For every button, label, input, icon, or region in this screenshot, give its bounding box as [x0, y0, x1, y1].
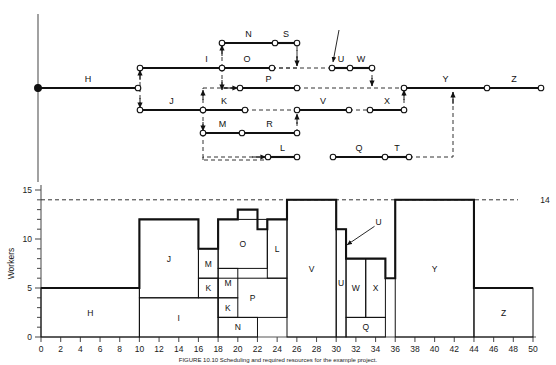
network-event-node-2 [137, 65, 143, 71]
dependency-link-16 [409, 92, 453, 157]
network-event-node-18 [239, 130, 245, 136]
figure-canvas: HIJNSOPKMRVXUWLQTYZ 05101502468101214161… [0, 0, 556, 365]
x-tick-label-32: 32 [351, 344, 361, 354]
network-event-node-26 [382, 154, 388, 160]
activity-label-i-1: I [205, 54, 208, 64]
network-event-node-22 [369, 65, 375, 71]
activity-label-y-17: Y [442, 74, 448, 84]
network-event-node-4 [200, 107, 206, 113]
activity-label-o-5: O [243, 54, 250, 64]
x-tick-label-6: 6 [98, 344, 103, 354]
network-event-node-15 [346, 107, 352, 113]
activity-label-j-2: J [169, 96, 174, 106]
resource-block-label-y-16: Y [432, 264, 438, 274]
network-event-node-25 [330, 154, 336, 160]
dependency-link-3 [222, 68, 238, 88]
network-event-node-10 [269, 65, 275, 71]
x-tick-label-12: 12 [154, 344, 164, 354]
activity-label-k-7: K [221, 96, 227, 106]
x-tick-label-14: 14 [174, 344, 184, 354]
threshold-label: 14 [540, 195, 550, 205]
network-event-node-11 [237, 85, 243, 91]
network-event-node-9 [219, 65, 225, 71]
x-tick-label-18: 18 [213, 344, 223, 354]
x-tick-label-22: 22 [253, 344, 263, 354]
x-tick-label-28: 28 [312, 344, 322, 354]
network-event-node-17 [401, 107, 407, 113]
figure-caption: FIGURE 10.10 Scheduling and required res… [179, 357, 378, 363]
resource-block-label-l-10: L [275, 244, 280, 254]
activity-label-t-16: T [394, 143, 400, 153]
network-event-node-28 [401, 85, 407, 91]
network-event-node-29 [484, 85, 490, 91]
dependency-link-9 [203, 133, 266, 160]
network-event-node-8 [294, 40, 300, 46]
x-tick-label-38: 38 [410, 344, 420, 354]
activity-label-r-9: R [266, 119, 273, 129]
activity-label-q-15: Q [355, 143, 362, 153]
network-diagram: HIJNSOPKMRVXUWLQTYZ [35, 14, 544, 182]
network-event-node-20 [347, 65, 353, 71]
resource-block-label-m-7: M [224, 278, 231, 288]
activity-label-h-0: H [85, 74, 92, 84]
x-tick-label-46: 46 [489, 344, 499, 354]
y-tick-label-5: 5 [27, 283, 32, 293]
network-event-node-12 [294, 85, 300, 91]
activity-label-u-12: U [338, 54, 345, 64]
activity-label-v-10: V [320, 96, 326, 106]
network-event-node-24 [294, 154, 300, 160]
network-event-node-14 [294, 107, 300, 113]
activity-label-n-3: N [245, 29, 252, 39]
y-tick-label-0: 0 [27, 332, 32, 342]
network-event-node-7 [272, 40, 278, 46]
annotation-label-u-0: U [375, 217, 381, 227]
activity-label-w-13: W [357, 54, 366, 64]
resource-block-label-n-5: N [235, 322, 241, 332]
resource-block-label-u-12: U [338, 278, 344, 288]
activity-label-x-11: X [384, 96, 390, 106]
x-tick-label-34: 34 [371, 344, 381, 354]
x-tick-label-16: 16 [194, 344, 204, 354]
resource-block-label-k-3: K [205, 283, 211, 293]
x-tick-label-26: 26 [292, 344, 302, 354]
network-event-node-16 [367, 107, 373, 113]
resource-block-label-h-0: H [87, 308, 93, 318]
y-tick-label-15: 15 [23, 185, 33, 195]
network-event-node-19 [294, 130, 300, 136]
network-event-node-27 [406, 154, 412, 160]
resource-block-label-x-15: X [373, 283, 379, 293]
resource-block-label-i-1: I [178, 313, 180, 323]
resource-block-label-k-6: K [225, 303, 231, 313]
resource-block-label-j-2: J [167, 254, 171, 264]
resource-block-label-o-9: O [239, 239, 246, 249]
network-event-node-1 [135, 85, 141, 91]
x-tick-label-44: 44 [469, 344, 479, 354]
resource-block-label-m-4: M [205, 259, 212, 269]
activity-label-s-4: S [283, 29, 289, 39]
resource-block-label-q-13: Q [362, 322, 369, 332]
y-axis-title: Workers [6, 248, 16, 280]
network-start-node [35, 85, 42, 92]
x-tick-label-42: 42 [450, 344, 460, 354]
x-tick-label-36: 36 [391, 344, 401, 354]
x-tick-label-48: 48 [509, 344, 519, 354]
resource-block-label-v-11: V [309, 264, 315, 274]
x-tick-label-30: 30 [331, 344, 341, 354]
resource-block-label-z-17: Z [501, 308, 506, 318]
network-event-node-23 [265, 154, 271, 160]
annotation-leader-u-0 [347, 226, 374, 245]
activity-label-p-6: P [265, 74, 271, 84]
x-tick-label-24: 24 [272, 344, 282, 354]
dependency-link-4 [272, 47, 297, 68]
resource-histogram: 0510150246810121416182022242628303234363… [6, 185, 550, 354]
network-event-node-5 [200, 130, 206, 136]
x-tick-label-20: 20 [233, 344, 243, 354]
resource-block-label-p-8: P [250, 293, 256, 303]
network-event-node-6 [219, 40, 225, 46]
resource-block-label-w-14: W [352, 283, 360, 293]
x-tick-label-4: 4 [78, 344, 83, 354]
x-tick-label-10: 10 [135, 344, 145, 354]
x-tick-label-8: 8 [117, 344, 122, 354]
activity-label-z-18: Z [511, 74, 517, 84]
activity-label-m-8: M [219, 119, 227, 129]
